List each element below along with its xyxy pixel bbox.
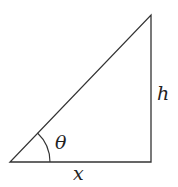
triangle-outline bbox=[10, 15, 151, 162]
right-triangle-diagram: θ h x bbox=[0, 0, 178, 187]
angle-label-theta: θ bbox=[55, 131, 67, 153]
angle-arc bbox=[38, 133, 51, 162]
height-label-h: h bbox=[157, 82, 169, 104]
base-label-x: x bbox=[73, 162, 84, 184]
